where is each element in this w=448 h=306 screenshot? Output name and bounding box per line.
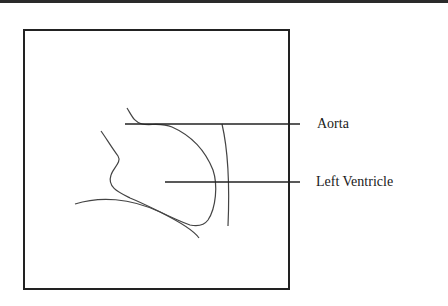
heart-sketch: [0, 0, 448, 306]
left-ventricle-outline: [101, 108, 216, 226]
aorta-label: Aorta: [317, 117, 349, 131]
lower-contour: [75, 199, 199, 238]
vertical-contour: [222, 124, 229, 226]
left-ventricle-label: Left Ventricle: [316, 175, 393, 189]
